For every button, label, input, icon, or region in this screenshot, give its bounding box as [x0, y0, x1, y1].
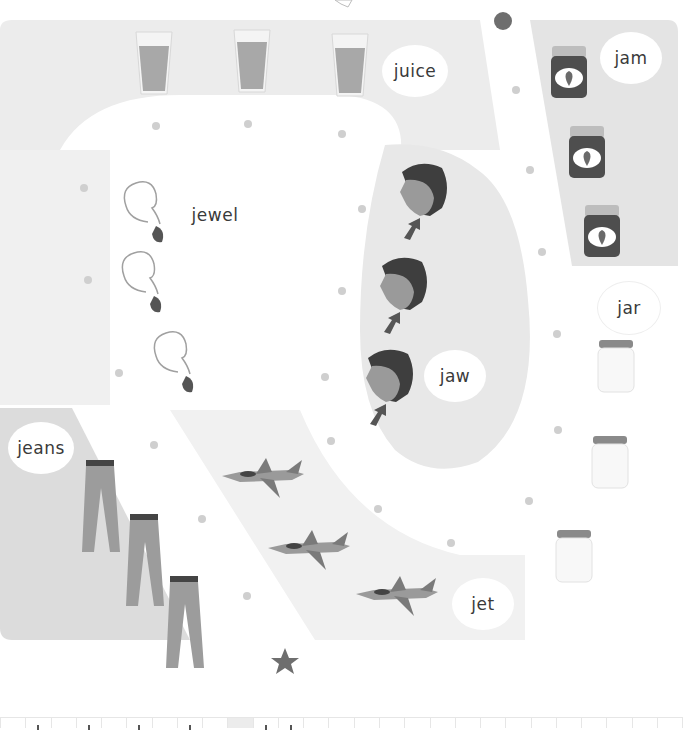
jam-label: jam	[614, 48, 647, 68]
fighter-jet-icon	[220, 456, 310, 510]
writing-cell	[556, 717, 581, 728]
writing-cell	[51, 717, 76, 728]
juice-speech-bubble: juice	[382, 45, 448, 97]
writing-cell	[480, 717, 505, 728]
jeans-icon	[80, 458, 122, 556]
fighter-jet-icon	[354, 574, 444, 628]
writing-cell	[379, 717, 404, 728]
end-star-marker	[271, 648, 299, 674]
writing-practice-row	[0, 717, 683, 728]
jeans-icon	[124, 512, 166, 610]
jet-speech-bubble: jet	[452, 578, 514, 630]
writing-cell	[253, 717, 278, 728]
jam-jar-icon	[581, 203, 623, 259]
jaw-speech-bubble: jaw	[424, 350, 486, 402]
jewel-pendant-icon	[118, 178, 178, 248]
writing-cell	[606, 717, 631, 728]
jar-label: jar	[617, 298, 641, 318]
writing-cell	[404, 717, 429, 728]
jaw-label: jaw	[440, 366, 471, 386]
writing-cell	[25, 717, 50, 728]
writing-cell	[581, 717, 606, 728]
writing-cell	[278, 717, 303, 728]
writing-cell	[328, 717, 353, 728]
jeans-icon	[164, 574, 206, 672]
writing-cell	[0, 717, 25, 728]
writing-cell	[76, 717, 101, 728]
juice-glass-icon	[134, 28, 174, 98]
writing-cell	[126, 717, 151, 728]
juice-glass-icon	[232, 26, 272, 96]
writing-cell	[303, 717, 328, 728]
face-jaw-icon	[370, 252, 434, 336]
writing-cell	[455, 717, 480, 728]
writing-cell	[632, 717, 657, 728]
jewel-pendant-icon	[148, 328, 208, 398]
writing-cell-shaded	[227, 717, 252, 728]
writing-cell	[177, 717, 202, 728]
jam-jar-icon	[566, 124, 608, 180]
jam-jar-icon	[548, 44, 590, 100]
writing-cell	[202, 717, 227, 728]
jet-label: jet	[471, 594, 494, 614]
jeans-speech-bubble: jeans	[8, 422, 74, 474]
empty-jar-icon	[590, 436, 630, 490]
writing-cell	[101, 717, 126, 728]
jar-speech-bubble: jar	[597, 281, 661, 335]
juice-label: juice	[394, 61, 437, 81]
face-jaw-icon	[390, 158, 454, 242]
writing-cell	[657, 717, 683, 728]
writing-cell	[152, 717, 177, 728]
start-circle-marker	[494, 12, 512, 30]
writing-cell	[505, 717, 530, 728]
face-jaw-icon	[356, 344, 420, 428]
empty-jar-icon	[596, 340, 636, 394]
jewel-speech-bubble: jewel	[178, 190, 252, 240]
writing-cell	[531, 717, 556, 728]
jam-speech-bubble: jam	[600, 32, 662, 84]
fighter-jet-icon	[266, 528, 356, 582]
jeans-label: jeans	[17, 438, 65, 458]
writing-cell	[430, 717, 455, 728]
empty-jar-icon	[554, 530, 594, 584]
writing-cell	[354, 717, 379, 728]
jewel-pendant-icon	[116, 248, 176, 318]
juice-glass-icon	[330, 30, 370, 100]
jewel-label: jewel	[192, 205, 239, 225]
